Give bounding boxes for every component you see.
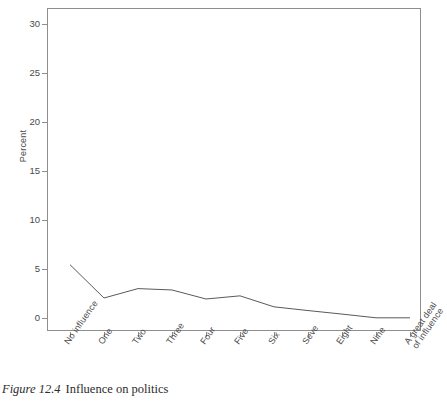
- y-tick-mark-25: [42, 73, 47, 74]
- y-tick-mark-10: [42, 220, 47, 221]
- y-tick-label-20: 20: [14, 117, 40, 127]
- y-tick-label-0: 0: [14, 313, 40, 323]
- plot-area: [47, 8, 421, 331]
- y-tick-mark-15: [42, 171, 47, 172]
- figure-caption: Figure 12.4Influence on politics: [2, 382, 168, 397]
- y-tick-label-10: 10: [14, 215, 40, 225]
- figure-number: Figure 12.4: [2, 382, 61, 396]
- y-tick-mark-30: [42, 24, 47, 25]
- y-axis-title: Percent: [18, 101, 28, 191]
- y-tick-mark-0: [42, 318, 47, 319]
- y-tick-label-5: 5: [14, 264, 40, 274]
- y-tick-mark-20: [42, 122, 47, 123]
- figure-caption-text: Influence on politics: [66, 382, 169, 396]
- y-tick-label-25: 25: [14, 68, 40, 78]
- y-tick-label-15: 15: [14, 166, 40, 176]
- y-tick-label-30: 30: [14, 19, 40, 29]
- x-tick-label-six: Six: [267, 331, 282, 347]
- y-tick-mark-5: [42, 269, 47, 270]
